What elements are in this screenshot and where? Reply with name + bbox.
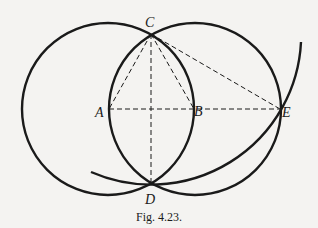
label-C: C [145,15,155,30]
label-E: E [281,105,291,120]
segment-CE [151,34,280,109]
label-B: B [194,104,203,119]
label-D: D [144,192,155,207]
geometry-figure: C A B E D Fig. 4.23. [0,0,318,228]
segment-CB [151,34,194,109]
segment-CA [109,34,151,109]
figure-caption: Fig. 4.23. [136,210,182,224]
label-A: A [94,105,104,120]
